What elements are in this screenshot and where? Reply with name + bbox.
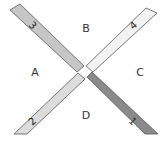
band-2 [14, 73, 85, 134]
band-3 [10, 4, 84, 72]
band-1 [87, 72, 158, 134]
region-label-c: C [136, 66, 144, 79]
crossing-diagram: A B C D 3 4 2 1 [0, 0, 165, 145]
band-4 [86, 8, 157, 72]
region-label-d: D [82, 109, 90, 122]
region-label-b: B [82, 22, 90, 35]
region-label-a: A [31, 66, 39, 79]
